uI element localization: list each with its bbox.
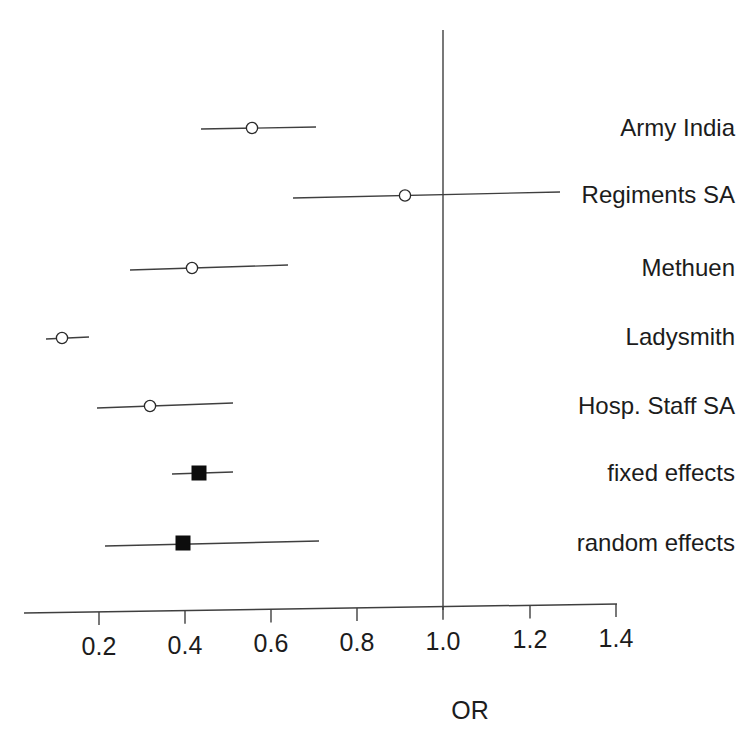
forest-plot-figure: 0.2 0.4 0.6 0.8 1.0 1.2 1.4 OR Army Indi… xyxy=(0,0,748,744)
point-marker-open-circle xyxy=(399,190,410,201)
point-marker-filled-square xyxy=(176,536,190,550)
x-tick-label-5: 1.2 xyxy=(513,625,548,653)
x-tick-label-4: 1.0 xyxy=(426,627,461,655)
x-tick-label-2: 0.6 xyxy=(254,629,289,657)
forest-row-fixed-effects xyxy=(172,466,233,480)
point-marker-open-circle xyxy=(186,262,197,273)
row-label-army-india: Army India xyxy=(620,114,735,141)
forest-row-regiments-sa xyxy=(293,190,560,201)
point-marker-open-circle xyxy=(144,400,155,411)
point-marker-filled-square xyxy=(192,466,206,480)
x-tick-label-6: 1.4 xyxy=(599,624,634,652)
row-label-methuen: Methuen xyxy=(642,254,735,281)
point-marker-open-circle xyxy=(56,332,67,343)
row-label-fixed-effects: fixed effects xyxy=(607,459,735,486)
forest-row-hosp-staff-sa xyxy=(97,400,233,411)
forest-row-army-india xyxy=(201,122,316,133)
x-tick-label-1: 0.4 xyxy=(168,631,203,659)
x-axis-line xyxy=(24,604,617,613)
row-label-hosp-staff-sa: Hosp. Staff SA xyxy=(578,392,735,419)
forest-row-methuen xyxy=(130,262,288,273)
row-label-ladysmith: Ladysmith xyxy=(626,323,735,350)
point-marker-open-circle xyxy=(246,122,257,133)
x-axis-title: OR xyxy=(451,696,489,724)
ci-whisker xyxy=(201,127,316,129)
ci-whisker xyxy=(97,403,233,408)
ci-whisker xyxy=(130,265,288,270)
row-label-regiments-sa: Regiments SA xyxy=(582,181,735,208)
ci-whisker xyxy=(293,192,560,198)
x-tick-label-0: 0.2 xyxy=(82,632,117,660)
row-label-random-effects: random effects xyxy=(577,529,735,556)
forest-plot-canvas: 0.2 0.4 0.6 0.8 1.0 1.2 1.4 OR Army Indi… xyxy=(0,0,748,744)
forest-row-random-effects xyxy=(105,536,319,550)
forest-row-ladysmith xyxy=(46,332,89,343)
x-tick-label-3: 0.8 xyxy=(340,628,375,656)
ci-whisker xyxy=(105,541,319,546)
